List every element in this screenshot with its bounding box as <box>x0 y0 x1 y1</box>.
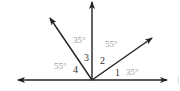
angle-diagram: 35° 55° 55° 35° 3 2 4 1 <box>0 0 180 91</box>
angle-number-4: 4 <box>73 65 78 75</box>
degree-label-angle1: 35° <box>126 68 139 77</box>
degree-label-angle3: 35° <box>73 36 86 45</box>
degree-label-angle4: 55° <box>54 62 67 71</box>
angle-number-1: 1 <box>115 68 120 78</box>
angle-rays-svg <box>0 0 180 91</box>
edge-mark <box>178 76 179 83</box>
angle-number-2: 2 <box>100 56 105 66</box>
angle-number-3: 3 <box>84 53 89 63</box>
degree-label-angle2: 55° <box>105 40 118 49</box>
